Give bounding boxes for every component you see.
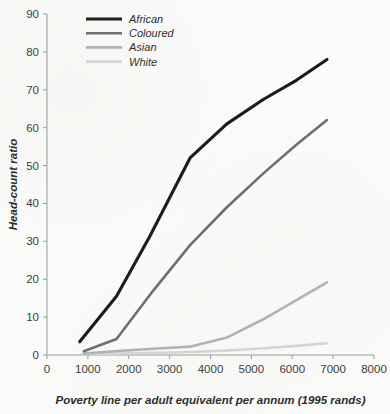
series-line-white (84, 343, 327, 354)
x-tick-label: 8000 (361, 363, 387, 375)
y-tick-label: 70 (26, 84, 39, 96)
series-line-coloured (84, 120, 327, 351)
x-tick-label: 6000 (279, 363, 305, 375)
series-line-african (80, 59, 327, 341)
y-tick-label: 10 (26, 311, 39, 323)
legend-label-white: White (129, 56, 157, 68)
x-axis-ticks: 010002000300040005000600070008000 (44, 355, 387, 375)
x-tick-label: 5000 (239, 363, 265, 375)
chart-container: 010002000300040005000600070008000 010203… (0, 0, 390, 414)
y-tick-label: 30 (26, 235, 39, 247)
line-chart: 010002000300040005000600070008000 010203… (0, 0, 390, 414)
y-axis-ticks: 0102030405060708090 (26, 8, 47, 361)
y-tick-label: 90 (26, 8, 39, 20)
y-axis-title: Head-count ratio (7, 139, 19, 230)
y-tick-label: 20 (26, 273, 39, 285)
y-tick-label: 0 (33, 349, 39, 361)
chart-axes (47, 14, 374, 355)
y-tick-label: 50 (26, 160, 39, 172)
x-tick-label: 2000 (116, 363, 142, 375)
x-tick-label: 3000 (157, 363, 183, 375)
x-tick-label: 4000 (198, 363, 224, 375)
chart-series (80, 59, 327, 354)
legend-label-coloured: Coloured (129, 27, 175, 39)
series-line-asian (84, 282, 327, 353)
y-tick-label: 60 (26, 122, 39, 134)
y-tick-label: 40 (26, 197, 39, 209)
x-tick-label: 1000 (75, 363, 101, 375)
legend-label-african: African (128, 13, 163, 25)
chart-legend: AfricanColouredAsianWhite (86, 13, 175, 68)
x-tick-label: 0 (44, 363, 50, 375)
y-tick-label: 80 (26, 46, 39, 58)
chart-axis-titles: Poverty line per adult equivalent per an… (7, 139, 366, 406)
legend-label-asian: Asian (128, 41, 157, 53)
x-tick-label: 7000 (320, 363, 346, 375)
x-axis-title: Poverty line per adult equivalent per an… (56, 394, 366, 406)
